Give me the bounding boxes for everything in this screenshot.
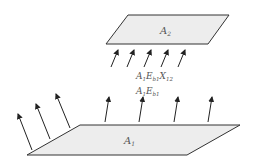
exchange-arrows xyxy=(111,50,185,67)
surface-a1: A1 xyxy=(27,125,240,155)
emission-flux-label: A1Eb1 xyxy=(135,86,160,97)
exchange-flux-label: A1Eb1X12 xyxy=(135,71,174,82)
surface-a2: A2 xyxy=(106,15,229,44)
radiation-exchange-diagram: A2 A1Eb1X12 A1Eb1 A1 xyxy=(0,0,255,166)
